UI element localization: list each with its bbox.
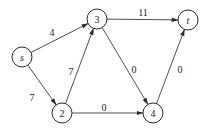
node-s: s bbox=[12, 47, 32, 67]
edge-s-to-3 bbox=[31, 24, 88, 53]
edge-weight-2-3: 7 bbox=[69, 66, 74, 77]
edge-weight-3-4: 0 bbox=[132, 64, 137, 75]
node-t: t bbox=[178, 10, 198, 30]
node-label: s bbox=[20, 52, 24, 63]
node-label: t bbox=[187, 15, 190, 26]
edge-weight-s-2: 7 bbox=[30, 92, 35, 103]
edge-weight-3-t: 11 bbox=[138, 7, 148, 18]
node-label: 4 bbox=[151, 108, 156, 119]
edge-weight-s-3: 4 bbox=[50, 27, 55, 38]
edge-weight-4-t: 0 bbox=[178, 64, 183, 75]
node-3: 3 bbox=[87, 9, 107, 29]
node-label: 3 bbox=[95, 14, 100, 25]
edge-weight-2-4: 0 bbox=[102, 102, 107, 113]
node-2: 2 bbox=[52, 103, 72, 123]
edge-3-to-4 bbox=[102, 28, 148, 105]
node-4: 4 bbox=[143, 103, 163, 123]
flow-network-diagram: s3t24 47711000 bbox=[0, 0, 208, 135]
node-label: 2 bbox=[60, 108, 65, 119]
edge-3-to-t bbox=[107, 19, 178, 20]
